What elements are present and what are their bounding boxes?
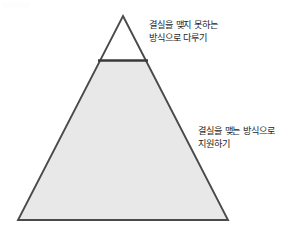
- pyramid-bottom-section-fill: [18, 60, 228, 220]
- pyramid-top-section-fill: [100, 16, 145, 60]
- label-top-line-1: 결실을 맺지 못하는: [149, 18, 218, 31]
- label-bottom-section: 결실을 맺는 방식으로 지원하기: [198, 124, 275, 150]
- label-top-section: 결실을 맺지 못하는 방식으로 다루기: [149, 18, 218, 44]
- label-bottom-line-2: 지원하기: [198, 137, 275, 150]
- label-bottom-line-1: 결실을 맺는 방식으로: [198, 124, 275, 137]
- label-top-line-2: 방식으로 다루기: [149, 31, 218, 44]
- pyramid-diagram-figure: 결실을 맺지 못하는 방식으로 다루기 결실을 맺는 방식으로 지원하기: [0, 0, 302, 237]
